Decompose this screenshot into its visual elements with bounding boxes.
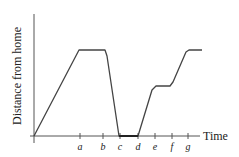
tick-label-a: a: [78, 141, 83, 152]
tick-labels: a b c d e f g: [78, 141, 191, 152]
distance-line: [34, 50, 202, 136]
distance-time-graph: a b c d e f g Time Distance from home: [0, 0, 239, 157]
tick-label-g: g: [186, 141, 191, 152]
tick-label-b: b: [101, 141, 106, 152]
tick-label-e: e: [153, 141, 158, 152]
tick-label-c: c: [118, 141, 123, 152]
tick-label-f: f: [171, 141, 175, 152]
x-axis-label: Time: [203, 129, 228, 143]
y-axis-label: Distance from home: [10, 27, 24, 125]
tick-label-d: d: [136, 141, 142, 152]
